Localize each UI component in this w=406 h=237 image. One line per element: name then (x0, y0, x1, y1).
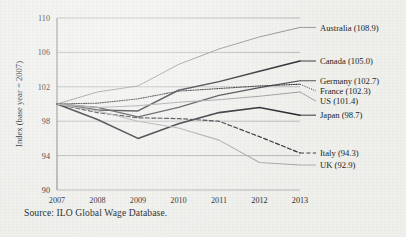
series-end-label-canada: Canada (105.0) (320, 56, 373, 66)
x-axis-tick-label: 2007 (49, 196, 65, 205)
y-axis-tick-label: 98 (42, 117, 50, 126)
series-end-label-us: US (101.4) (320, 96, 358, 106)
series-line-australia (57, 27, 300, 104)
x-axis-tick-label: 2013 (292, 196, 308, 205)
x-axis-tick-label: 2010 (170, 196, 186, 205)
x-axis-tick-label: 2008 (89, 196, 105, 205)
source-note: Source: ILO Global Wage Database. (24, 207, 167, 218)
x-axis-tick-label: 2009 (130, 196, 146, 205)
figure: 9094981021061102007200820092010201120122… (0, 0, 406, 237)
y-axis-tick-label: 106 (38, 48, 50, 57)
y-axis-title: Index (base year = 2007) (14, 61, 24, 147)
series-end-label-australia: Australia (108.9) (320, 23, 379, 33)
y-axis-tick-label: 94 (42, 152, 50, 161)
series-end-label-germany: Germany (102.7) (320, 76, 379, 86)
line-chart: 9094981021061102007200820092010201120122… (0, 0, 406, 237)
series-leader-france (300, 84, 316, 91)
series-leader-us (300, 92, 316, 101)
y-axis-tick-label: 102 (38, 83, 50, 92)
series-end-label-france: France (102.3) (320, 86, 371, 96)
y-axis-tick-label: 90 (42, 186, 50, 195)
series-line-us (57, 92, 300, 107)
x-axis-tick-label: 2011 (211, 196, 227, 205)
series-end-label-italy: Italy (94.3) (320, 148, 359, 158)
series-end-label-uk: UK (92.9) (320, 160, 355, 170)
series-end-label-japan: Japan (98.7) (320, 110, 363, 120)
x-axis-tick-label: 2012 (251, 196, 267, 205)
y-axis-tick-label: 110 (38, 14, 50, 23)
